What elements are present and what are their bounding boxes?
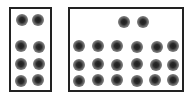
dot [33,58,45,70]
dot [15,58,27,70]
dot [111,74,123,86]
dot [167,59,179,71]
dot [131,58,143,70]
dot [111,59,123,71]
dot [16,14,28,26]
dot [73,59,85,71]
dot [32,14,44,26]
dot [32,74,44,86]
dot [15,75,27,87]
dot [118,16,130,28]
dot [167,40,179,52]
dot [150,59,162,71]
dot [73,40,85,52]
dot [149,74,161,86]
dot [167,74,179,86]
dot [111,40,123,52]
dot [151,41,163,53]
dot [92,40,104,52]
dot [131,41,143,53]
dot [73,75,85,87]
dot [15,40,27,52]
dot [131,75,143,87]
dot [137,16,149,28]
dot [33,41,45,53]
dot [92,74,104,86]
dot [92,58,104,70]
